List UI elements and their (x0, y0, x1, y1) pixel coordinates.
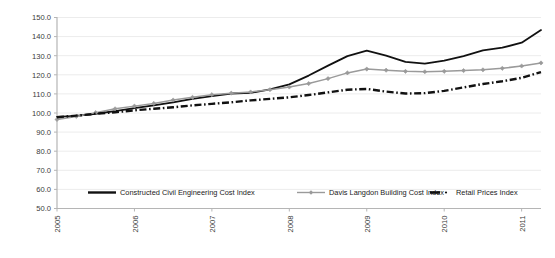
x-tick-label: 2007 (208, 216, 217, 233)
x-tick-label: 2008 (286, 216, 295, 233)
y-tick-label: 50.0 (36, 204, 51, 213)
series-marker (442, 69, 446, 73)
series-marker (384, 68, 388, 72)
y-tick-label: 90.0 (36, 128, 51, 137)
y-tick-label: 110.0 (33, 90, 51, 99)
series-line (57, 30, 541, 117)
series-marker (500, 66, 504, 70)
y-tick-label: 80.0 (36, 147, 51, 156)
y-tick-label: 60.0 (36, 185, 51, 194)
series-marker (520, 64, 524, 68)
gridlines (57, 18, 541, 209)
y-tick-label: 100.0 (32, 109, 51, 118)
series-marker (403, 69, 407, 73)
series-marker (307, 81, 311, 85)
y-tick-label: 120.0 (32, 71, 51, 80)
series-marker (423, 70, 427, 74)
y-tick-label: 150.0 (32, 13, 51, 22)
x-tick-label: 2009 (363, 216, 372, 233)
series-marker (365, 67, 369, 71)
y-tick-label: 140.0 (32, 32, 51, 41)
y-tick-label: 130.0 (32, 52, 51, 61)
legend-label: Davis Langdon Building Cost Index (329, 188, 444, 197)
x-tick-label: 2010 (440, 216, 449, 233)
series-line (57, 72, 541, 117)
legend-label: Constructed Civil Engineering Cost Index (120, 188, 255, 197)
legend-label: Retail Prices Index (456, 188, 518, 197)
line-chart-svg: 150.0140.0130.0120.0110.0100.090.080.070… (0, 0, 555, 258)
y-tick-labels: 150.0140.0130.0120.0110.0100.090.080.070… (32, 13, 57, 213)
plot-area: 150.0140.0130.0120.0110.0100.090.080.070… (0, 0, 555, 258)
series-marker (326, 77, 330, 81)
x-tick-labels: 2005200620072008200920102011 (53, 209, 527, 233)
y-tick-label: 70.0 (36, 166, 51, 175)
x-tick-label: 2005 (53, 216, 62, 233)
x-tick-label: 2006 (131, 216, 140, 233)
series-marker (461, 68, 465, 72)
x-tick-label: 2011 (518, 216, 527, 232)
series-lines (55, 30, 543, 121)
series-marker (539, 61, 543, 65)
chart-container: 150.0140.0130.0120.0110.0100.090.080.070… (0, 0, 555, 258)
legend-marker (309, 190, 313, 194)
legend-swatch-dot (445, 191, 447, 193)
series-marker (481, 68, 485, 72)
